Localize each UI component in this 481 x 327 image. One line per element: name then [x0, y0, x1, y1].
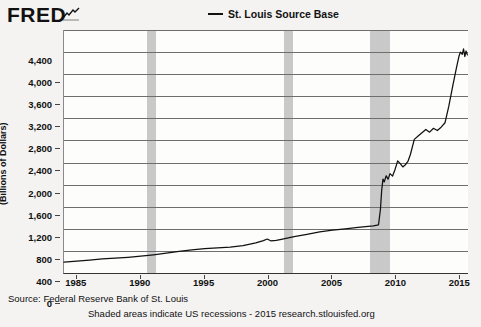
y-tick-mark-2800 — [55, 148, 60, 149]
legend-swatch-series-0 — [208, 13, 223, 15]
y-tick-label-1600: 1,600 — [28, 209, 52, 220]
y-tick-mark-1600 — [55, 215, 60, 216]
x-tick-label-1990: 1990 — [129, 277, 150, 288]
y-tick-mark-3200 — [55, 126, 60, 127]
x-tick-label-2000: 2000 — [257, 277, 278, 288]
fred-squiggle-icon — [62, 7, 80, 21]
y-tick-label-400: 400 — [36, 275, 52, 286]
y-tick-label-800: 800 — [36, 253, 52, 264]
gridline-0 — [64, 273, 468, 274]
y-tick-mark-3600 — [55, 104, 60, 105]
y-tick-mark-1200 — [55, 237, 60, 238]
y-tick-label-3600: 3,600 — [28, 99, 52, 110]
series-line-st-louis-source-base — [64, 30, 468, 273]
y-tick-label-2800: 2,800 — [28, 143, 52, 154]
source-text: Source: Federal Reserve Bank of St. Loui… — [8, 293, 188, 304]
y-tick-label-2000: 2,000 — [28, 187, 52, 198]
y-tick-mark-4000 — [55, 82, 60, 83]
y-tick-label-1200: 1,200 — [28, 231, 52, 242]
y-tick-mark-400 — [55, 281, 60, 282]
chart-legend: St. Louis Source Base — [208, 8, 339, 20]
y-tick-label-3200: 3,200 — [28, 121, 52, 132]
fred-logo: FRED — [7, 4, 66, 25]
y-axis-title: (Billions of Dollars) — [0, 122, 8, 205]
legend-label-series-0: St. Louis Source Base — [228, 8, 339, 20]
x-tick-label-2015: 2015 — [449, 277, 470, 288]
x-tick-label-2005: 2005 — [321, 277, 342, 288]
y-tick-mark-2400 — [55, 170, 60, 171]
recession-note-text: Shaded areas indicate US recessions - 20… — [88, 308, 375, 319]
x-tick-label-2010: 2010 — [385, 277, 406, 288]
y-tick-label-4000: 4,000 — [28, 77, 52, 88]
x-tick-label-1995: 1995 — [193, 277, 214, 288]
fred-chart-screenshot: FRED St. Louis Source Base (Billions of … — [0, 0, 481, 327]
x-axis-labels: 1985199019952000200520102015 — [63, 275, 467, 291]
y-tick-mark-2000 — [55, 193, 60, 194]
y-tick-label-4400: 4,400 — [28, 55, 52, 66]
y-tick-label-2400: 2,400 — [28, 165, 52, 176]
x-tick-label-1985: 1985 — [65, 277, 86, 288]
y-tick-mark-800 — [55, 259, 60, 260]
plot-area — [63, 30, 468, 274]
y-axis-labels: (Billions of Dollars) 04008001,2001,6002… — [0, 30, 60, 273]
